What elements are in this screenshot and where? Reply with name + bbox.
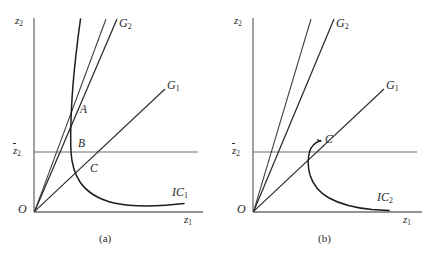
- panel-a-caption: (a): [99, 232, 111, 244]
- panel-b-y-axis-label: z2: [234, 15, 242, 26]
- panel-a-point-C: C: [90, 163, 98, 175]
- ray-G1: [254, 89, 384, 211]
- panel-a: z2 z1 O z2 G2 G1 IC1 A B C (a): [0, 0, 217, 257]
- panel-a-x-axis-label: z1: [184, 214, 192, 225]
- panel-a-label-G1: G1: [167, 79, 180, 91]
- panel-a-point-A: A: [80, 104, 87, 116]
- panel-b-plot: [217, 0, 434, 257]
- panel-a-label-G2: G2: [119, 17, 132, 29]
- panel-b-label-G1: G1: [386, 79, 399, 91]
- panel-b-x-axis-label: z1: [403, 214, 411, 225]
- ray-G2: [35, 19, 117, 211]
- ray-budget-line: [254, 19, 311, 211]
- panel-a-reference-label: z2: [13, 145, 21, 156]
- panel-b: z2 z1 O z2 G2 G1 IC2 C (b): [217, 0, 434, 257]
- panel-b-origin-label: O: [237, 203, 246, 215]
- curve-IC1: [71, 19, 184, 206]
- panel-a-point-B: B: [78, 138, 85, 150]
- panel-b-point-C: C: [325, 134, 333, 146]
- ray-budget-line: [35, 19, 106, 211]
- panel-a-label-IC1: IC1: [172, 186, 188, 198]
- panel-b-caption: (b): [318, 232, 331, 244]
- panel-a-origin-label: O: [18, 203, 27, 215]
- figure-root: z2 z1 O z2 G2 G1 IC1 A B C (a): [0, 0, 434, 257]
- panel-b-label-G2: G2: [336, 17, 349, 29]
- ray-G1: [35, 89, 165, 211]
- panel-b-reference-label: z2: [232, 145, 240, 156]
- ray-G2: [254, 19, 334, 211]
- panel-b-label-IC2: IC2: [377, 191, 393, 203]
- panel-a-y-axis-label: z2: [15, 15, 23, 26]
